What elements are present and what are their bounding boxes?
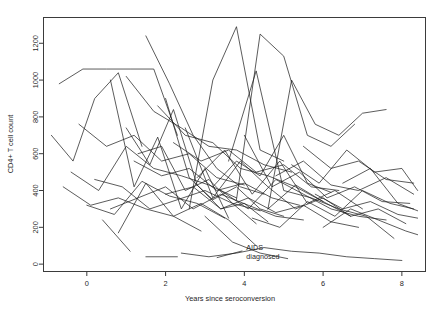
y-tick-label: 400 (31, 184, 40, 196)
y-tick-label: 1200 (31, 35, 40, 51)
x-tick-label: 2 (164, 279, 168, 288)
aids-diagnosed-label: AIDS (246, 243, 263, 252)
y-tick-label: 200 (31, 221, 40, 233)
y-tick-label: 0 (31, 262, 40, 266)
y-tick-label: 800 (31, 111, 40, 123)
y-tick-label: 600 (31, 148, 40, 160)
x-tick-label: 0 (85, 279, 89, 288)
x-tick-label: 8 (400, 279, 404, 288)
cd4-spaghetti-figure: 02468 020040060080010001200 AIDSdiagnose… (0, 0, 442, 317)
x-axis-title: Years since seroconversion (185, 294, 275, 303)
y-axis-title: CD4+ T cell count (6, 115, 15, 174)
x-tick-label: 4 (242, 279, 246, 288)
chart-canvas: 02468 020040060080010001200 AIDSdiagnose… (0, 0, 442, 317)
x-tick-label: 6 (321, 279, 325, 288)
figure-background (0, 0, 442, 317)
y-tick-label: 1000 (31, 72, 40, 88)
aids-diagnosed-label: diagnosed (246, 252, 279, 261)
